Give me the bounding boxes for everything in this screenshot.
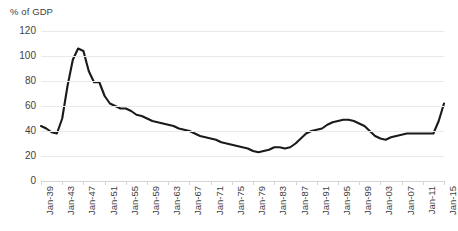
x-tick-label: Jan-63 (172, 186, 182, 215)
x-tick-label: Jan-51 (109, 186, 119, 215)
x-tick (274, 181, 275, 185)
y-tick-label: 20 (0, 151, 36, 161)
x-tick-label: Jan-47 (87, 186, 97, 215)
x-tick (62, 181, 63, 185)
x-tick (168, 181, 169, 185)
x-tick (189, 181, 190, 185)
gridline-120 (41, 31, 444, 32)
x-tick-label: Jan-59 (151, 186, 161, 215)
x-tick-label: Jan-43 (66, 186, 76, 215)
x-tick (232, 181, 233, 185)
x-tick (253, 181, 254, 185)
x-tick (41, 181, 42, 185)
x-tick-label: Jan-87 (300, 186, 310, 215)
x-tick-label: Jan-99 (363, 186, 373, 215)
x-axis-labels: Jan-39Jan-43Jan-47Jan-51Jan-55Jan-59Jan-… (41, 186, 444, 231)
x-tick (211, 181, 212, 185)
x-tick-label: Jan-11 (427, 186, 437, 214)
x-tick-label: Jan-15 (448, 186, 458, 215)
gridline-60 (41, 106, 444, 107)
x-tick-label: Jan-95 (342, 186, 352, 215)
x-tick-label: Jan-03 (384, 186, 394, 215)
x-tick-label: Jan-55 (130, 186, 140, 215)
x-tick-label: Jan-67 (193, 186, 203, 215)
y-tick-label: 80 (0, 76, 36, 86)
x-tick-label: Jan-71 (215, 186, 225, 215)
x-tick (444, 181, 445, 185)
x-tick (126, 181, 127, 185)
x-tick (105, 181, 106, 185)
x-tick (402, 181, 403, 185)
plot-area (41, 31, 444, 181)
x-tick (359, 181, 360, 185)
gridline-100 (41, 56, 444, 57)
y-axis-title: % of GDP (10, 6, 53, 17)
y-tick-label: 60 (0, 101, 36, 111)
x-tick (423, 181, 424, 185)
x-tick (380, 181, 381, 185)
x-tick-label: Jan-75 (236, 186, 246, 215)
gridline-40 (41, 131, 444, 132)
y-tick-label: 40 (0, 126, 36, 136)
x-tick-label: Jan-07 (406, 186, 416, 215)
series-line-path (41, 49, 444, 153)
y-tick-label: 100 (0, 51, 36, 61)
y-axis-labels: 020406080100120 (0, 31, 36, 181)
gridline-80 (41, 81, 444, 82)
y-tick-label: 120 (0, 26, 36, 36)
x-tick (296, 181, 297, 185)
x-tick-label: Jan-79 (257, 186, 267, 215)
x-tick-label: Jan-39 (45, 186, 55, 215)
x-tick-label: Jan-83 (278, 186, 288, 215)
gridline-20 (41, 156, 444, 157)
x-tick (83, 181, 84, 185)
y-tick-label: 0 (0, 176, 36, 186)
x-tick (338, 181, 339, 185)
x-tick (147, 181, 148, 185)
x-tick-label: Jan-91 (321, 186, 331, 215)
x-tick (317, 181, 318, 185)
